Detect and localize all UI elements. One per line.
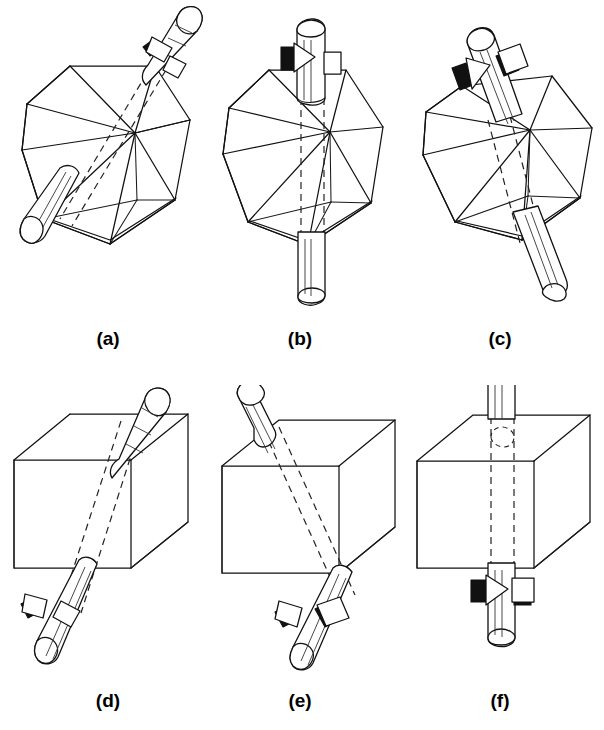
cube-d xyxy=(14,414,188,568)
panel-e xyxy=(205,385,400,675)
rod-upper-f xyxy=(488,385,515,419)
panel-d xyxy=(0,385,205,675)
panel-a xyxy=(0,0,205,315)
rod-upper-e xyxy=(237,385,275,453)
figure-root: (a) xyxy=(0,0,604,730)
caption-b: (b) xyxy=(270,328,330,350)
panel-b-drawing xyxy=(205,0,400,315)
cube-e xyxy=(222,420,395,573)
rod-lower-c xyxy=(513,206,567,301)
rod-lower-f xyxy=(488,563,515,647)
panel-c-drawing xyxy=(400,0,604,315)
panel-c xyxy=(400,0,604,315)
rod-lower-a xyxy=(20,166,79,244)
axis-hidden-line-a xyxy=(60,63,166,226)
panel-b xyxy=(205,0,400,315)
panel-f-drawing xyxy=(400,385,604,675)
rod-lower-b xyxy=(298,232,325,305)
panel-e-drawing xyxy=(205,385,400,675)
caption-e: (e) xyxy=(270,690,330,712)
caption-c: (c) xyxy=(470,328,530,350)
panel-a-drawing xyxy=(0,0,205,315)
cube-f xyxy=(417,415,590,568)
caption-f: (f) xyxy=(470,690,530,712)
caption-d: (d) xyxy=(78,690,138,712)
panel-d-drawing xyxy=(0,385,205,675)
rod-upper-d xyxy=(110,388,170,478)
panel-f xyxy=(400,385,604,675)
caption-a: (a) xyxy=(78,328,138,350)
